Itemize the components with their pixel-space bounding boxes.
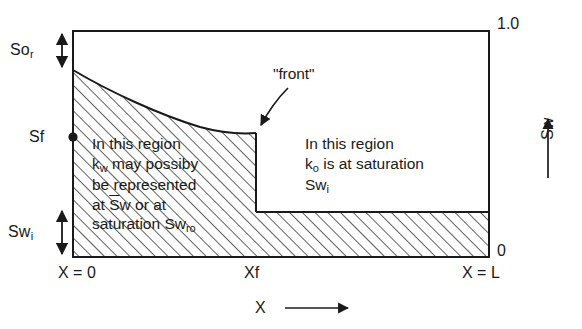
front-callout-label: "front" <box>273 66 314 82</box>
initial-water-label: Swi <box>8 224 33 240</box>
left-region-line-2: kw may possiby <box>92 154 252 176</box>
right-region-line-2: ko is at saturation <box>305 154 480 176</box>
left-region-annotation: In this region kw may possiby be represe… <box>92 134 252 236</box>
front-saturation-marker <box>68 132 77 141</box>
x-tick-length: X = L <box>462 265 500 281</box>
left-region-line-1: In this region <box>92 134 252 154</box>
left-region-line-3: be represented <box>92 175 252 195</box>
right-region-line-1: In this region <box>305 134 480 154</box>
x-tick-origin: X = 0 <box>58 265 96 281</box>
right-region-line-3: Swi <box>305 175 480 197</box>
x-tick-front: Xf <box>244 265 259 281</box>
front-saturation-label: Sf <box>29 129 45 145</box>
figure-container: Sor Sf Swi "front" In this region kw may… <box>0 0 582 329</box>
right-region-annotation: In this region ko is at saturation Swi <box>305 134 480 197</box>
left-region-line-4: at Sw or at <box>92 195 252 215</box>
y-tick-top: 1.0 <box>497 16 519 32</box>
residual-oil-label: Sor <box>10 42 34 58</box>
y-axis-title: Sw <box>540 117 556 140</box>
x-axis-title: X <box>255 300 266 316</box>
y-tick-bottom: 0 <box>497 243 506 259</box>
front-callout-arrow <box>261 88 288 125</box>
left-region-line-5: saturation Swro <box>92 214 252 236</box>
